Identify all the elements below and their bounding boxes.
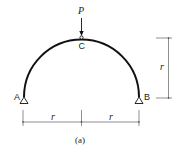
figure-caption: (a) (75, 135, 85, 145)
semicircular-arch-diagram: P C A B r r r (a) (0, 0, 183, 154)
vertical-dimension (156, 37, 172, 99)
horizontal-dimension (22, 110, 140, 126)
load-label: P (77, 5, 84, 16)
pin-support-b-icon (135, 97, 143, 104)
horizontal-dimension-left-label: r (51, 111, 55, 122)
point-c-label: C (79, 41, 86, 51)
point-b-label: B (144, 92, 150, 102)
pin-support-a-icon (20, 97, 28, 104)
horizontal-dimension-right-label: r (109, 111, 113, 122)
vertical-dimension-label: r (160, 61, 164, 72)
point-a-label: A (14, 92, 20, 102)
load-arrow-icon (79, 18, 83, 36)
hinge-c-icon (80, 36, 83, 39)
